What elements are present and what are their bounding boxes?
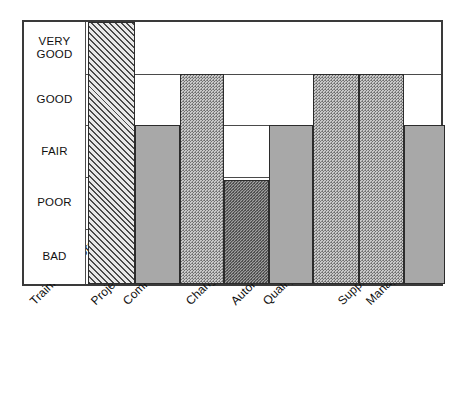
bars-layer xyxy=(86,22,441,284)
y-band-poor: POOR xyxy=(24,177,85,229)
y-band-label: GOOD xyxy=(37,93,73,106)
bar-autonomy xyxy=(269,125,313,284)
y-axis-label-column: VERY GOOD GOOD FAIR POOR BAD xyxy=(24,22,86,284)
bar-project-mgt xyxy=(135,125,180,284)
y-band-good: GOOD xyxy=(24,74,85,126)
y-band-label: BAD xyxy=(42,250,66,263)
y-band-very-good: VERY GOOD xyxy=(24,22,85,74)
y-band-label: VERY GOOD xyxy=(24,35,85,61)
y-band-label: POOR xyxy=(37,196,72,209)
y-band-label: FAIR xyxy=(41,145,67,158)
bar-communications xyxy=(180,74,224,284)
bar-support xyxy=(359,74,404,284)
y-band-fair: FAIR xyxy=(24,125,85,177)
bar-quality-control xyxy=(313,74,359,284)
x-axis-labels: Training Record Project Mgt. Communicati… xyxy=(0,286,463,414)
plot-area: VERY GOOD GOOD FAIR POOR BAD xyxy=(22,20,443,286)
y-band-bad: BAD xyxy=(24,229,85,285)
bar-training-record xyxy=(88,22,135,284)
bar-change-mgt xyxy=(224,180,269,284)
bar-management xyxy=(404,125,445,284)
bar-chart: VERY GOOD GOOD FAIR POOR BAD Training Re… xyxy=(0,0,463,414)
